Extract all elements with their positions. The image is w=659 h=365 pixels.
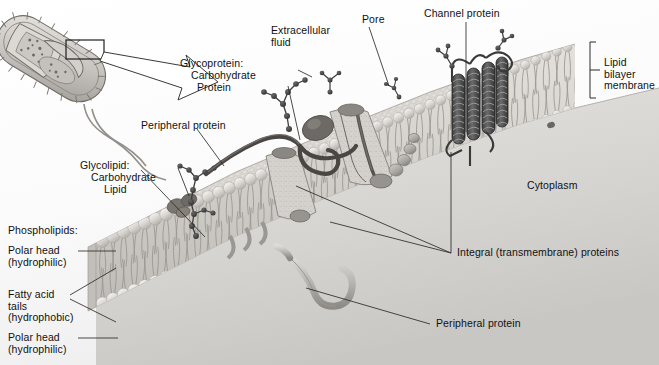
- label-peripheral-protein-bottom: Peripheral protein: [436, 318, 521, 330]
- label-glycolipid-lipid: Lipid: [104, 184, 127, 196]
- label-glycoprotein-protein: Protein: [197, 82, 231, 94]
- cell-membrane-diagram: Extracellular fluid Pore Channel protein…: [0, 0, 659, 365]
- label-glycoprotein-carbohydrate: Carbohydrate: [191, 70, 256, 82]
- label-fatty-acid-tails: Fatty acid tails (hydrophobic): [8, 289, 74, 324]
- label-lipid-bilayer-membrane: Lipid bilayer membrane: [604, 57, 655, 92]
- label-glycolipid-title: Glycolipid:: [80, 160, 130, 172]
- membrane-cut-face: [88, 243, 96, 311]
- label-extracellular-fluid: Extracellular fluid: [271, 25, 330, 48]
- label-glycolipid-carbohydrate: Carbohydrate: [91, 172, 156, 184]
- label-integral-proteins: Integral (transmembrane) proteins: [457, 247, 619, 259]
- label-peripheral-protein-top: Peripheral protein: [141, 120, 226, 132]
- label-channel-protein: Channel protein: [424, 8, 500, 20]
- label-cytoplasm: Cytoplasm: [527, 180, 578, 192]
- label-polar-head-bottom: Polar head (hydrophilic): [8, 332, 67, 355]
- label-glycoprotein-title: Glycoprotein:: [180, 58, 243, 70]
- label-polar-head-top: Polar head (hydrophilic): [8, 245, 67, 268]
- label-pore: Pore: [362, 14, 385, 26]
- label-phospholipids-title: Phospholipids:: [8, 225, 78, 237]
